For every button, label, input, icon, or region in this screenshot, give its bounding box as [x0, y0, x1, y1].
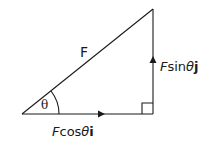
angle-label: θ — [41, 98, 48, 112]
vertical-component-label: Fsinθj — [160, 59, 199, 74]
arrow-right-icon — [98, 111, 105, 118]
angle-arc — [51, 91, 59, 114]
force-triangle-diagram: F θ Fcosθi Fsinθj — [0, 0, 215, 149]
hypotenuse-label: F — [80, 44, 88, 60]
horizontal-component-label: Fcosθi — [52, 124, 94, 139]
right-angle-marker — [142, 103, 153, 114]
arrow-up-icon — [150, 56, 157, 63]
